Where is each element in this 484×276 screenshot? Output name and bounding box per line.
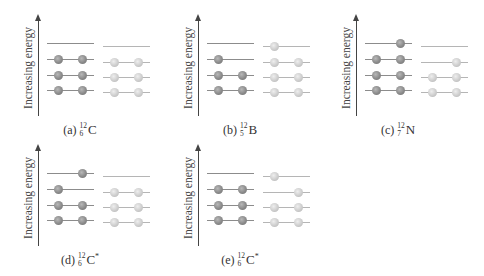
energy-axis-arrow-icon bbox=[38, 20, 39, 116]
neutron-level-2 bbox=[103, 207, 150, 208]
panel-caption: (d)126C* bbox=[0, 252, 160, 269]
neutron-icon bbox=[294, 203, 303, 212]
neutron-icon bbox=[452, 88, 461, 97]
proton-level-4 bbox=[207, 43, 254, 44]
proton-icon bbox=[214, 86, 223, 95]
proton-icon bbox=[396, 71, 405, 80]
neutron-level-1 bbox=[103, 222, 150, 223]
proton-icon bbox=[54, 71, 63, 80]
neutron-icon bbox=[294, 188, 303, 197]
atomic-number: 6 bbox=[78, 260, 86, 268]
y-axis-label: Increasing energy bbox=[182, 157, 194, 239]
neutron-icon bbox=[134, 203, 143, 212]
neutron-icon bbox=[294, 218, 303, 227]
neutron-icon bbox=[270, 218, 279, 227]
proton-level-2 bbox=[47, 75, 94, 76]
neutron-icon bbox=[428, 73, 437, 82]
proton-level-4 bbox=[365, 43, 412, 44]
energy-diagram-panel-a: Increasing energy(a)126C bbox=[0, 0, 160, 138]
proton-icon bbox=[78, 201, 87, 210]
proton-level-3 bbox=[47, 189, 94, 190]
proton-icon bbox=[238, 185, 247, 194]
proton-icon bbox=[54, 86, 63, 95]
panel-caption: (e)126C* bbox=[160, 252, 320, 269]
proton-icon bbox=[78, 55, 87, 64]
neutron-icon bbox=[452, 73, 461, 82]
neutron-level-3 bbox=[103, 62, 150, 63]
element-symbol: C bbox=[246, 252, 255, 267]
neutron-icon bbox=[428, 88, 437, 97]
neutron-level-2 bbox=[263, 77, 310, 78]
excited-state-marker: * bbox=[95, 252, 99, 261]
neutron-icon bbox=[110, 88, 119, 97]
proton-icon bbox=[238, 86, 247, 95]
neutron-icon bbox=[110, 73, 119, 82]
neutron-icon bbox=[294, 88, 303, 97]
isotope-numbers: 126 bbox=[238, 252, 246, 268]
neutron-icon bbox=[110, 188, 119, 197]
proton-level-3 bbox=[365, 59, 412, 60]
proton-level-1 bbox=[207, 220, 254, 221]
neutron-icon bbox=[110, 58, 119, 67]
neutron-icon bbox=[270, 73, 279, 82]
atomic-number: 7 bbox=[397, 130, 405, 138]
proton-icon bbox=[214, 71, 223, 80]
caption-letter: (d) bbox=[61, 253, 75, 267]
neutron-level-3 bbox=[103, 192, 150, 193]
proton-level-3 bbox=[47, 59, 94, 60]
neutron-icon bbox=[110, 203, 119, 212]
neutron-icon bbox=[270, 42, 279, 51]
neutron-icon bbox=[134, 218, 143, 227]
neutron-level-1 bbox=[263, 222, 310, 223]
proton-icon bbox=[396, 55, 405, 64]
atomic-number: 6 bbox=[238, 260, 246, 268]
proton-icon bbox=[238, 201, 247, 210]
neutron-level-1 bbox=[103, 92, 150, 93]
element-symbol: N bbox=[406, 122, 415, 137]
proton-icon bbox=[78, 86, 87, 95]
proton-icon bbox=[214, 216, 223, 225]
neutron-icon bbox=[452, 58, 461, 67]
proton-level-2 bbox=[47, 205, 94, 206]
neutron-icon bbox=[270, 172, 279, 181]
proton-level-2 bbox=[365, 75, 412, 76]
isotope-numbers: 127 bbox=[397, 122, 405, 138]
y-axis-label: Increasing energy bbox=[22, 157, 34, 239]
excited-state-marker: * bbox=[255, 252, 259, 261]
proton-level-1 bbox=[207, 90, 254, 91]
energy-axis-arrow-icon bbox=[198, 20, 199, 116]
y-axis-label: Increasing energy bbox=[22, 27, 34, 109]
neutron-level-3 bbox=[421, 62, 468, 63]
proton-icon bbox=[214, 185, 223, 194]
proton-level-1 bbox=[47, 90, 94, 91]
y-axis-label: Increasing energy bbox=[182, 27, 194, 109]
proton-icon bbox=[54, 201, 63, 210]
proton-icon bbox=[372, 86, 381, 95]
proton-icon bbox=[78, 216, 87, 225]
proton-level-4 bbox=[47, 43, 94, 44]
proton-level-2 bbox=[207, 205, 254, 206]
proton-icon bbox=[372, 71, 381, 80]
neutron-level-2 bbox=[263, 207, 310, 208]
isotope-numbers: 126 bbox=[78, 252, 86, 268]
proton-icon bbox=[396, 86, 405, 95]
proton-icon bbox=[78, 169, 87, 178]
proton-level-4 bbox=[207, 173, 254, 174]
neutron-level-1 bbox=[421, 92, 468, 93]
neutron-icon bbox=[134, 88, 143, 97]
energy-axis-arrow-icon bbox=[38, 150, 39, 246]
energy-diagram-panel-c: Increasing energy(c)127N bbox=[318, 0, 478, 138]
neutron-level-4 bbox=[263, 46, 310, 47]
neutron-icon bbox=[134, 58, 143, 67]
proton-level-4 bbox=[47, 173, 94, 174]
y-axis-label: Increasing energy bbox=[340, 27, 352, 109]
neutron-level-4 bbox=[263, 176, 310, 177]
proton-icon bbox=[214, 201, 223, 210]
proton-icon bbox=[396, 39, 405, 48]
neutron-icon bbox=[270, 88, 279, 97]
neutron-level-4 bbox=[103, 46, 150, 47]
caption-letter: (c) bbox=[381, 123, 394, 137]
proton-level-1 bbox=[47, 220, 94, 221]
neutron-icon bbox=[270, 203, 279, 212]
neutron-icon bbox=[294, 58, 303, 67]
